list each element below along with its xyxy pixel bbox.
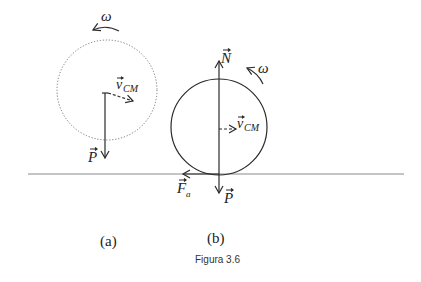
- svg-text:N: N: [220, 50, 232, 66]
- svg-text:a: a: [186, 189, 191, 199]
- svg-text:CM: CM: [244, 122, 260, 133]
- svg-text:CM: CM: [123, 83, 139, 94]
- svg-text:P: P: [223, 190, 233, 206]
- figure-caption: Figura 3.6: [195, 254, 240, 265]
- omega-label: ω: [258, 60, 269, 76]
- physics-figure: ω P v CM (a) N P: [0, 0, 421, 282]
- vcm-label: v CM: [116, 77, 139, 94]
- panel-b: N P F a v CM ω (b): [171, 49, 269, 248]
- friction-label: F a: [176, 179, 191, 200]
- vcm-label: v CM: [237, 116, 260, 133]
- ball-outline-dotted: [57, 40, 157, 140]
- panel-a-label: (a): [100, 233, 117, 250]
- svg-text:P: P: [87, 149, 97, 165]
- weight-label: P: [223, 189, 233, 207]
- normal-label: N: [220, 49, 232, 67]
- panel-b-label: (b): [207, 230, 225, 247]
- vcm-vector-arrow: [108, 93, 133, 101]
- weight-label: P: [87, 148, 97, 166]
- omega-label: ω: [101, 8, 112, 24]
- panel-a: ω P v CM (a): [57, 8, 157, 250]
- omega-rotation-arrow-icon: [93, 27, 119, 31]
